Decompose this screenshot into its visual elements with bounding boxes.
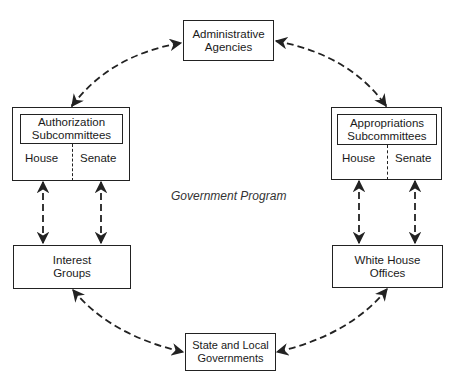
appropriations-house-label: House [342,152,375,164]
node-label: White House [355,254,421,267]
node-white-house-offices: White House Offices [332,245,443,288]
appropriations-title-box: Appropriations Subcommittees [337,114,437,145]
node-label: Authorization [38,116,105,129]
edge-authorization-administrative [72,43,181,106]
node-label: State and Local [192,339,268,352]
node-label: Appropriations [350,117,424,130]
house-senate-divider [72,144,73,181]
appropriations-senate-label: Senate [395,152,431,164]
node-label: Administrative [192,28,264,41]
house-senate-divider [387,145,388,180]
node-authorization-subcommittees: Authorization Subcommittees House Senate [12,107,130,181]
node-administrative-agencies: Administrative Agencies [183,20,274,61]
node-label: Groups [53,267,91,280]
node-label: Governments [197,352,263,365]
edge-interest-state [73,290,183,352]
authorization-senate-label: Senate [80,152,116,164]
center-label: Government Program [171,189,286,203]
node-interest-groups: Interest Groups [13,245,131,289]
edge-administrative-appropriations [276,41,386,106]
node-appropriations-subcommittees: Appropriations Subcommittees House Senat… [331,107,442,180]
authorization-house-label: House [25,152,58,164]
node-label: Interest [53,254,91,267]
authorization-title-box: Authorization Subcommittees [20,114,123,144]
node-label: Subcommittees [32,129,111,142]
node-state-local-governments: State and Local Governments [185,333,276,371]
edge-whitehouse-state [277,289,387,352]
node-label: Agencies [205,41,252,54]
node-label: Offices [370,267,406,280]
node-label: Subcommittees [347,130,426,143]
